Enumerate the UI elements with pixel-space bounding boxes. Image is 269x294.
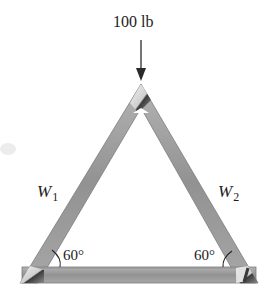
angle-label-left: 60° [63, 248, 84, 263]
load-arrow [136, 40, 146, 81]
member-label-w1: W1 [37, 183, 58, 203]
member-label-w2: W2 [218, 183, 239, 203]
w2-subscript: 2 [233, 190, 239, 204]
truss-figure [0, 0, 269, 294]
w1-subscript: 1 [52, 190, 58, 204]
w2-main: W [218, 182, 232, 201]
member-bottom [22, 267, 256, 283]
load-label: 100 lb [113, 14, 153, 30]
w1-main: W [37, 182, 51, 201]
angle-label-right: 60° [194, 248, 215, 263]
truss-diagram: 100 lb W1 W2 60° 60° [0, 0, 269, 294]
smudge-artifact [0, 143, 16, 155]
